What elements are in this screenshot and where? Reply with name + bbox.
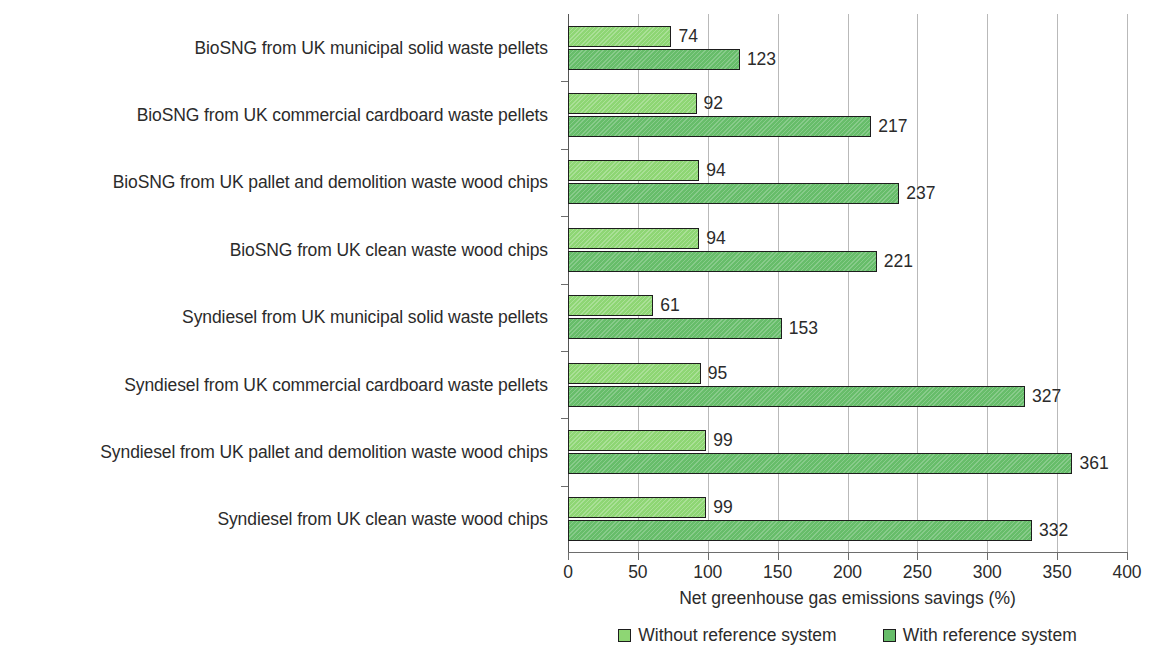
- bar: [568, 93, 697, 114]
- bar: [568, 160, 699, 181]
- y-axis-tick: [561, 351, 568, 352]
- x-axis-tick: [1127, 553, 1128, 560]
- chart-legend: Without reference system With reference …: [568, 625, 1127, 645]
- x-axis-tick-label: 50: [628, 562, 647, 582]
- x-axis-tick-label: 350: [1043, 562, 1072, 582]
- category-label: Syndiesel from UK clean waste wood chips: [217, 509, 548, 529]
- gridline: [1127, 14, 1128, 553]
- bar-value-label: 153: [789, 318, 818, 339]
- bar-value-label: 237: [906, 183, 935, 204]
- category-label: BioSNG from UK municipal solid waste pel…: [194, 38, 548, 58]
- bar: [568, 116, 871, 137]
- x-axis-tick: [638, 553, 639, 560]
- x-axis-tick-label: 100: [693, 562, 722, 582]
- bar-value-label: 221: [884, 251, 913, 272]
- bar-value-label: 95: [708, 363, 727, 384]
- x-axis-tick-label: 0: [563, 562, 573, 582]
- legend-label: With reference system: [903, 625, 1077, 645]
- bar-value-label: 92: [704, 93, 723, 114]
- category-label: Syndiesel from UK commercial cardboard w…: [124, 375, 548, 395]
- bar: [568, 318, 782, 339]
- x-axis-tick: [1057, 553, 1058, 560]
- x-axis-tick-label: 250: [903, 562, 932, 582]
- x-axis-tick: [568, 553, 569, 560]
- bar: [568, 26, 671, 47]
- bar-value-label: 361: [1079, 453, 1108, 474]
- bar: [568, 386, 1025, 407]
- bar: [568, 453, 1072, 474]
- bar: [568, 49, 740, 70]
- x-axis-tick: [917, 553, 918, 560]
- bar: [568, 228, 699, 249]
- bar: [568, 497, 706, 518]
- bar-value-label: 94: [706, 160, 725, 181]
- legend-swatch-icon: [618, 629, 631, 642]
- bar-value-label: 332: [1039, 520, 1068, 541]
- category-label: BioSNG from UK commercial cardboard wast…: [137, 105, 548, 125]
- y-axis-tick: [561, 149, 568, 150]
- bar-value-label: 123: [747, 49, 776, 70]
- bar-value-label: 217: [878, 116, 907, 137]
- x-axis-tick: [987, 553, 988, 560]
- bar-value-label: 94: [706, 228, 725, 249]
- x-axis-tick-label: 300: [973, 562, 1002, 582]
- y-axis-tick: [561, 81, 568, 82]
- bar-value-label: 61: [660, 295, 679, 316]
- category-label: BioSNG from UK pallet and demolition was…: [113, 172, 548, 192]
- x-axis-tick: [708, 553, 709, 560]
- category-label: Syndiesel from UK pallet and demolition …: [100, 442, 548, 462]
- x-axis-tick-label: 400: [1112, 562, 1141, 582]
- bar-value-label: 327: [1032, 386, 1061, 407]
- x-axis-tick-label: 200: [833, 562, 862, 582]
- category-axis-labels: BioSNG from UK municipal solid waste pel…: [0, 14, 560, 553]
- bar-chart: BioSNG from UK municipal solid waste pel…: [0, 0, 1151, 661]
- bar: [568, 183, 899, 204]
- legend-item-without-reference-system[interactable]: Without reference system: [618, 625, 836, 645]
- x-axis-tick: [778, 553, 779, 560]
- x-axis-tick: [848, 553, 849, 560]
- y-axis-tick: [561, 284, 568, 285]
- bar: [568, 295, 653, 316]
- plot-area: 7412392217942379422161153953279936199332: [568, 14, 1127, 553]
- bar: [568, 520, 1032, 541]
- bar-value-label: 99: [713, 497, 732, 518]
- legend-swatch-icon: [883, 629, 896, 642]
- x-axis-tick-label: 150: [763, 562, 792, 582]
- legend-label: Without reference system: [638, 625, 836, 645]
- bar-value-label: 99: [713, 430, 732, 451]
- bar-value-label: 74: [678, 26, 697, 47]
- category-label: Syndiesel from UK municipal solid waste …: [182, 307, 548, 327]
- legend-item-with-reference-system[interactable]: With reference system: [883, 625, 1077, 645]
- y-axis-tick: [561, 216, 568, 217]
- category-label: BioSNG from UK clean waste wood chips: [230, 240, 548, 260]
- bar: [568, 363, 701, 384]
- x-axis-title: Net greenhouse gas emissions savings (%): [568, 588, 1127, 609]
- y-axis-tick: [561, 418, 568, 419]
- bar: [568, 251, 877, 272]
- bar: [568, 430, 706, 451]
- y-axis-tick: [561, 486, 568, 487]
